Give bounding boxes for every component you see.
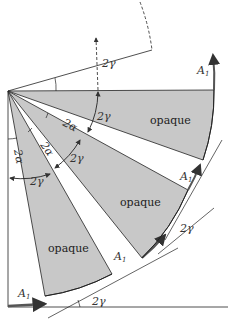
a1-label-mid: A1	[179, 170, 192, 184]
a1-label-top: A1	[196, 64, 209, 78]
gamma-label-bottom: 2γ	[91, 295, 106, 308]
a1-label-low: A1	[113, 250, 126, 264]
alpha-label-3: 2α	[11, 147, 27, 165]
gamma-label-top: 2γ	[101, 57, 116, 70]
opaque-label-2: opaque	[120, 196, 161, 209]
a1-arrow-bottom	[8, 304, 45, 306]
alpha-arc-top	[55, 78, 56, 91]
gamma-label-arc2: 2γ	[69, 152, 84, 165]
a1-label-bottom: A1	[17, 287, 30, 301]
dashed-gamma-arrow	[96, 38, 98, 90]
upper-ray	[8, 50, 152, 91]
opaque-label-1: opaque	[150, 114, 191, 127]
a1-arrow-top	[213, 55, 214, 90]
alpha-arc-3	[8, 138, 17, 139]
dashed-arc	[140, 2, 152, 50]
opaque-label-3: opaque	[48, 242, 89, 255]
gamma-label-tangent: 2γ	[179, 222, 194, 235]
gamma-label-arc3: 2γ	[29, 175, 44, 188]
gamma-label-arc1: 2γ	[96, 110, 111, 123]
angular-sector-diagram: opaque opaque opaque 2γ 2γ 2γ 2γ 2γ 2γ 2…	[0, 0, 236, 329]
